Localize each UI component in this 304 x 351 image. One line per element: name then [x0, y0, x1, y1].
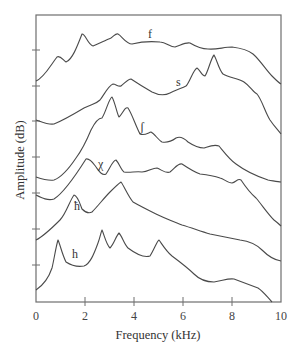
label-sh: ʃ: [139, 120, 145, 134]
x-tick-labels: 0 2 4 6 8 10: [33, 309, 287, 323]
label-chi: χ: [97, 157, 104, 171]
x-tick-8: 8: [229, 309, 235, 323]
label-s: s: [176, 75, 181, 89]
curve-h: [36, 230, 272, 302]
label-hbar: ħ: [74, 199, 80, 213]
curve-s: [36, 55, 281, 134]
spectra-chart: 0 2 4 6 8 10 Frequency (kHz) Amplitude (…: [0, 0, 304, 351]
x-tick-0: 0: [33, 309, 39, 323]
x-tick-10: 10: [275, 309, 287, 323]
curve-f: [36, 34, 281, 84]
x-tick-2: 2: [82, 309, 88, 323]
x-axis-label: Frequency (kHz): [115, 328, 200, 342]
x-tick-6: 6: [180, 309, 186, 323]
x-tick-4: 4: [131, 309, 137, 323]
y-axis-label: Amplitude (dB): [13, 120, 27, 200]
label-h: h: [72, 247, 78, 261]
label-f: f: [148, 27, 152, 41]
